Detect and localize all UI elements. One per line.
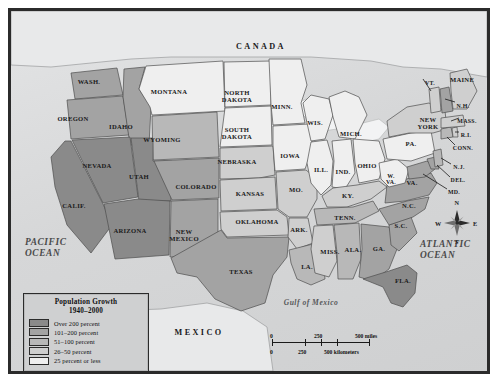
scale-miles-end: 500 miles [355,333,377,339]
state-ri [452,127,458,137]
state-ct [441,127,453,139]
state-wy [152,112,219,160]
legend-entry-label: Over 200 percent [54,320,100,327]
legend-title-line1: Population Growth [29,298,143,307]
legend-entry: 51–100 percent [29,338,143,346]
scale-km-end: 500 kilometers [324,349,359,355]
scale-tick-km-end [337,339,338,346]
legend-title-line2: 1940–2000 [29,307,143,316]
state-ms [311,225,337,277]
map-frame: .s{stroke:#4d4d4d;stroke-width:0.7;strok… [8,8,490,374]
legend-entry: 25 percent or less [29,357,143,365]
scale-tick-mi-mid [321,339,322,346]
legend-entry: 26–50 percent [29,347,143,355]
state-in [332,139,355,189]
legend-swatch [29,319,49,327]
legend-title: Population Growth 1940–2000 [29,298,143,316]
legend-swatch [29,357,49,365]
legend-entry-label: 51–100 percent [54,338,95,345]
legend-swatch [29,328,49,336]
scale-tick-km-mid [305,339,306,346]
compass-north-label: N [455,199,459,206]
compass-south-label: S [455,238,458,245]
legend-entry-label: 26–50 percent [54,348,92,355]
state-nd [224,61,271,107]
map-legend: Population Growth 1940–2000 Over 200 per… [23,293,149,372]
state-nj [433,149,443,167]
state-al [334,223,361,279]
legend-entry-label: 25 percent or less [54,357,101,364]
compass-west-label: W [435,220,441,227]
scale-tick-mi-end [369,339,370,346]
state-mn [269,59,307,125]
state-ne [220,146,275,179]
state-or [67,96,129,139]
legend-entry-list: Over 200 percent101–200 percent51–100 pe… [29,319,143,365]
scale-km-mid: 250 [298,349,306,355]
scale-km-start: 0 [270,349,273,355]
state-me [450,69,477,109]
state-ks [220,177,277,211]
scale-tick-0 [272,339,273,346]
state-wv [379,159,409,187]
state-vt [429,87,441,113]
compass-rose: N E S W [435,201,479,245]
legend-entry-label: 101–200 percent [54,329,98,336]
state-mt [139,61,225,115]
state-ky [322,181,387,207]
legend-entry: 101–200 percent [29,328,143,336]
state-sd [220,106,272,147]
compass-east-label: E [473,220,477,227]
population-growth-map-figure: .s{stroke:#4d4d4d;stroke-width:0.7;strok… [0,0,498,382]
state-ok [220,210,289,237]
legend-entry: Over 200 percent [29,319,143,327]
state-wa [71,68,123,99]
legend-swatch [29,347,49,355]
state-oh [353,139,385,183]
state-ar [288,218,313,249]
state-az [104,199,170,259]
legend-swatch [29,338,49,346]
